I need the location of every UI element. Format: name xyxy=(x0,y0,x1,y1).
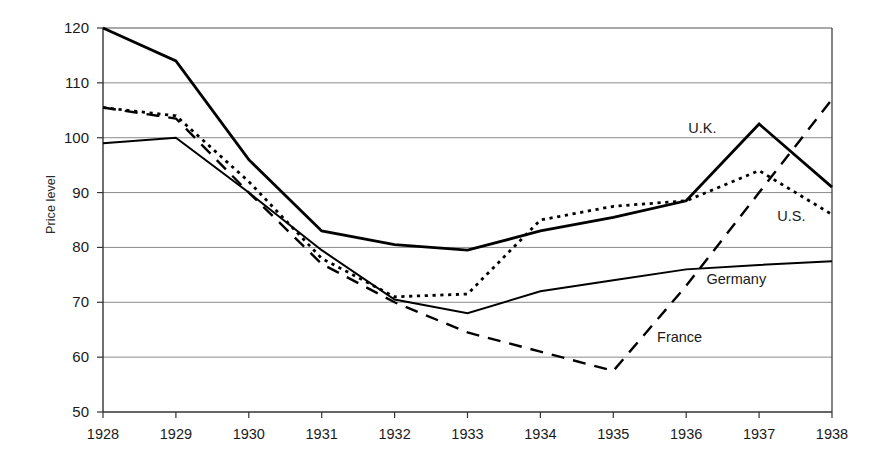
y-tick-label-60: 60 xyxy=(49,349,89,364)
x-tick-label-1934: 1934 xyxy=(510,427,570,442)
x-tick-label-1929: 1929 xyxy=(146,427,206,442)
series-line-uk xyxy=(103,28,832,250)
y-tick-label-50: 50 xyxy=(49,404,89,419)
x-tick-label-1935: 1935 xyxy=(583,427,643,442)
y-tick-label-90: 90 xyxy=(49,185,89,200)
series-line-france xyxy=(103,99,832,371)
series-label-us: U.S. xyxy=(777,209,805,224)
series-label-uk: U.K. xyxy=(688,121,716,136)
y-tick-label-120: 120 xyxy=(49,20,89,35)
x-tick-label-1937: 1937 xyxy=(729,427,789,442)
chart-plot-area xyxy=(0,0,883,467)
x-tick-label-1930: 1930 xyxy=(219,427,279,442)
x-tick-label-1933: 1933 xyxy=(438,427,498,442)
x-tick-label-1932: 1932 xyxy=(365,427,425,442)
price-level-line-chart: Price level 5060708090100110120 19281929… xyxy=(0,0,883,467)
series-label-germany: Germany xyxy=(707,272,767,287)
y-tick-label-70: 70 xyxy=(49,294,89,309)
x-tick-label-1928: 1928 xyxy=(73,427,133,442)
series-line-us xyxy=(103,108,832,297)
y-tick-label-100: 100 xyxy=(49,130,89,145)
x-tick-label-1936: 1936 xyxy=(656,427,716,442)
x-tick-label-1931: 1931 xyxy=(292,427,352,442)
x-tick-label-1938: 1938 xyxy=(802,427,862,442)
y-tick-label-110: 110 xyxy=(49,75,89,90)
y-tick-label-80: 80 xyxy=(49,239,89,254)
series-label-france: France xyxy=(657,330,702,345)
